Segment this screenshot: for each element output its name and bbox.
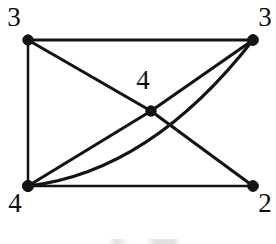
vertex-label-center: 4 bbox=[136, 65, 150, 95]
vertex-bottom-left bbox=[22, 180, 33, 191]
edge-layer bbox=[28, 40, 253, 186]
vertex-center bbox=[146, 106, 156, 116]
vertex-top-left bbox=[23, 35, 33, 45]
graph-figure: 3 3 4 4 2 bbox=[0, 0, 276, 244]
edge-center-to-bottom-right bbox=[151, 111, 253, 186]
vertex-bottom-right bbox=[248, 181, 259, 192]
vertex-top-right bbox=[248, 35, 259, 46]
vertex-label-bottom-right: 2 bbox=[258, 188, 272, 218]
vertex-label-top-right: 3 bbox=[258, 2, 272, 32]
graph-svg: 3 3 4 4 2 bbox=[0, 0, 276, 244]
edge-bottom-left-to-center bbox=[28, 111, 151, 186]
caption-partial bbox=[108, 239, 180, 244]
edge-center-to-top-right bbox=[151, 40, 253, 111]
edge-top-left-to-center bbox=[28, 40, 151, 111]
vertex-label-bottom-left: 4 bbox=[8, 188, 22, 218]
vertex-label-top-left: 3 bbox=[7, 2, 21, 32]
